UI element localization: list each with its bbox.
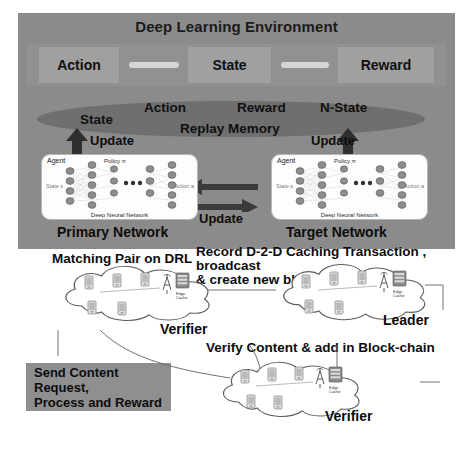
env-box-state: State [188,47,271,83]
nn-input-label: State s [276,183,293,189]
replay-field-action: Action [144,100,186,115]
update-label-left: Update [90,133,134,148]
nn-footer-label: Deep Neural Network [272,212,427,218]
update-label-middle: Update [199,211,243,226]
neural-network-graphic [62,161,182,211]
nn-footer-label: Deep Neural Network [42,212,197,218]
cloud-label-verifier-left: Verifier [160,321,207,337]
primary-network-caption: Primary Network [57,224,168,240]
replay-field-state: State [80,112,113,127]
svg-text:Cache: Cache [176,295,188,300]
target-network-caption: Target Network [286,224,387,240]
nn-input-label: State s [46,183,63,189]
svg-text:Cache: Cache [393,293,405,298]
update-label-right: Update [311,133,355,148]
connector-bar-2 [281,62,329,68]
env-box-reward: Reward [338,47,434,83]
neural-network-graphic [292,161,412,211]
replay-field-reward: Reward [237,100,286,115]
env-box-action: Action [39,47,119,83]
primary-network-card: Agent Policy π State s Action a Deep Neu… [41,154,198,220]
cloud-network-layer: Edge Cache Edge Cache Edge Cache [0,240,471,453]
action-state-reward-band: Action State Reward [27,44,446,86]
connector-bar-1 [129,62,179,68]
cloud-label-leader: Leader [383,312,429,328]
target-network-card: Agent Policy π State s Action a Deep Neu… [271,154,428,220]
page-title: Deep Learning Environment [18,18,455,35]
replay-field-n-state: N-State [320,100,367,115]
svg-text:Cache: Cache [329,389,341,394]
replay-memory-label: Replay Memory [180,121,280,136]
cloud-label-verifier-bottom: Verifier [325,408,372,424]
